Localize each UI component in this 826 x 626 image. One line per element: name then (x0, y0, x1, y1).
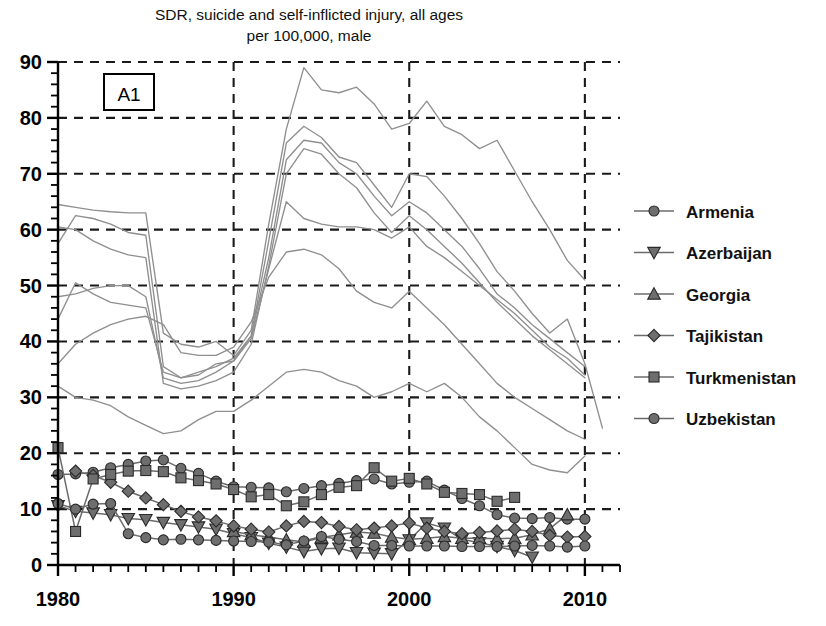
data-point-marker-square (194, 476, 204, 486)
legend-label: Tajikistan (686, 327, 763, 346)
data-point-marker-circle (475, 542, 485, 552)
data-point-marker-square (264, 490, 274, 500)
data-point-marker-circle (229, 536, 239, 546)
data-point-marker-circle (387, 540, 397, 550)
data-point-marker-circle (88, 499, 98, 509)
data-point-marker-circle (334, 534, 344, 544)
data-point-marker-square (492, 496, 502, 506)
data-point-marker-circle (71, 504, 81, 514)
data-point-marker-square (106, 469, 116, 479)
x-tick-label: 1990 (211, 588, 256, 610)
y-tick-label: 90 (20, 51, 42, 73)
data-point-marker-circle (527, 540, 537, 550)
data-point-marker-circle (404, 541, 414, 551)
data-point-marker-circle (246, 482, 256, 492)
data-point-marker-circle (352, 537, 362, 547)
data-point-marker-square (229, 485, 239, 495)
data-point-marker-square (457, 488, 467, 498)
data-point-marker-circle (176, 463, 186, 473)
data-point-marker-square (510, 492, 520, 502)
data-point-marker-square (316, 490, 326, 500)
data-point-marker-circle (264, 537, 274, 547)
x-tick-label: 2000 (387, 588, 432, 610)
data-point-marker-circle (580, 514, 590, 524)
data-point-marker-square (299, 497, 309, 507)
data-point-marker-circle (299, 483, 309, 493)
y-tick-label: 20 (20, 442, 42, 464)
chart-title: SDR, suicide and self-inflicted injury, … (155, 6, 463, 23)
data-point-marker-circle (649, 206, 659, 216)
data-point-marker-circle (158, 535, 168, 545)
data-point-marker-square (88, 474, 98, 484)
y-tick-label: 80 (20, 107, 42, 129)
data-point-marker-circle (545, 512, 555, 522)
y-tick-label: 50 (20, 275, 42, 297)
data-point-marker-square (71, 526, 81, 536)
legend-label: Georgia (686, 286, 751, 305)
data-point-marker-square (475, 490, 485, 500)
data-point-marker-square (158, 467, 168, 477)
data-point-marker-circle (492, 510, 502, 520)
chart-subtitle: per 100,000, male (247, 27, 372, 44)
data-point-marker-circle (422, 541, 432, 551)
data-point-marker-square (246, 492, 256, 502)
data-point-marker-circle (369, 474, 379, 484)
legend-label: Uzbekistan (686, 410, 776, 429)
x-tick-label: 1980 (36, 588, 81, 610)
data-point-marker-circle (562, 542, 572, 552)
y-tick-label: 10 (20, 498, 42, 520)
y-tick-label: 40 (20, 330, 42, 352)
data-point-marker-circle (281, 540, 291, 550)
data-point-marker-square (334, 482, 344, 492)
data-point-marker-circle (176, 534, 186, 544)
data-point-marker-circle (439, 541, 449, 551)
y-tick-label: 60 (20, 219, 42, 241)
y-tick-label: 0 (31, 554, 42, 576)
data-point-marker-circle (246, 537, 256, 547)
y-tick-label: 30 (20, 386, 42, 408)
data-point-marker-circle (649, 414, 659, 424)
data-point-marker-circle (211, 535, 221, 545)
data-point-marker-circle (158, 455, 168, 465)
data-point-marker-square (422, 479, 432, 489)
data-point-marker-circle (492, 542, 502, 552)
data-point-marker-square (176, 473, 186, 483)
y-tick-label: 70 (20, 163, 42, 185)
data-point-marker-circle (123, 529, 133, 539)
data-point-marker-square (352, 481, 362, 491)
data-point-marker-square (141, 466, 151, 476)
data-point-marker-square (123, 466, 133, 476)
legend-label: Armenia (686, 203, 755, 222)
data-point-marker-circle (299, 536, 309, 546)
data-point-marker-circle (527, 514, 537, 524)
panel-label-badge: A1 (104, 74, 154, 110)
data-point-marker-square (387, 476, 397, 486)
data-point-marker-square (369, 463, 379, 473)
data-point-marker-square (281, 501, 291, 511)
legend-label: Turkmenistan (686, 369, 796, 388)
data-point-marker-circle (580, 541, 590, 551)
data-point-marker-circle (141, 456, 151, 466)
data-point-marker-square (404, 473, 414, 483)
data-point-marker-circle (545, 541, 555, 551)
legend-label: Azerbaijan (686, 244, 772, 263)
data-point-marker-circle (510, 541, 520, 551)
data-point-marker-circle (369, 540, 379, 550)
chart-svg: SDR, suicide and self-inflicted injury, … (0, 0, 826, 626)
data-point-marker-circle (316, 531, 326, 541)
data-point-marker-circle (475, 501, 485, 511)
data-point-marker-circle (106, 499, 116, 509)
data-point-marker-circle (141, 533, 151, 543)
data-point-marker-square (211, 479, 221, 489)
data-point-marker-square (439, 487, 449, 497)
x-tick-label: 2010 (563, 588, 608, 610)
data-point-marker-circle (281, 487, 291, 497)
data-point-marker-circle (457, 542, 467, 552)
chart-figure: SDR, suicide and self-inflicted injury, … (0, 0, 826, 626)
panel-label-text: A1 (117, 84, 140, 105)
data-point-marker-circle (194, 535, 204, 545)
data-point-marker-circle (510, 513, 520, 523)
data-point-marker-square (649, 372, 659, 382)
